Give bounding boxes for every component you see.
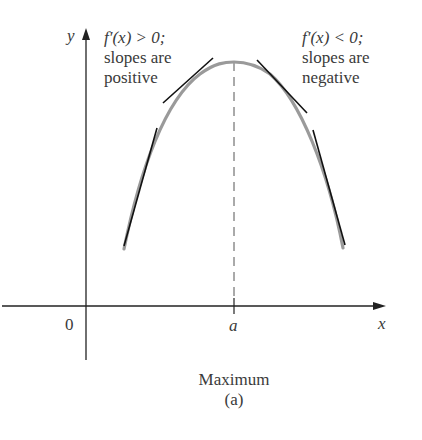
caption-sub: (a) [184, 390, 284, 410]
a-label: a [229, 316, 238, 336]
right-annotation-line2: slopes are [302, 48, 370, 68]
left-annotation-line2: slopes are [104, 48, 172, 68]
caption-title: Maximum [184, 370, 284, 390]
tangent-right-lower [313, 130, 345, 245]
caption: Maximum (a) [184, 370, 284, 410]
left-annotation: f′(x) > 0; slopes are positive [104, 28, 172, 88]
origin-label: 0 [65, 315, 74, 335]
y-axis-label: y [67, 26, 75, 46]
left-annotation-derivative: f′(x) > 0; [104, 28, 172, 48]
right-annotation-line3: negative [302, 68, 370, 88]
tangent-left-lower [124, 128, 157, 246]
right-annotation: f′(x) < 0; slopes are negative [302, 28, 370, 88]
x-axis-label: x [378, 314, 386, 334]
x-axis-arrow-icon [373, 302, 386, 310]
left-annotation-line3: positive [104, 68, 172, 88]
y-axis-arrow-icon [82, 28, 90, 40]
right-annotation-derivative: f′(x) < 0; [302, 28, 370, 48]
tangent-right-upper [257, 60, 307, 113]
